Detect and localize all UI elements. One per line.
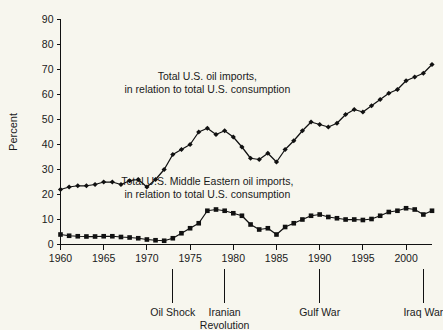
data-point-marker — [309, 213, 314, 218]
data-point-marker — [214, 207, 219, 212]
data-point-marker — [84, 183, 89, 188]
event-annotations: Oil ShockIranianRevolutionGulf WarIraq W… — [150, 269, 443, 330]
data-point-marker — [326, 124, 331, 129]
series-label-line2: in relation to total U.S. consumption — [124, 188, 290, 200]
x-axis-ticks: 196019651970197519801985199019952000 — [49, 245, 418, 264]
annotation-label: Iranian — [209, 306, 241, 318]
series-middle-eastern-oil-imports — [58, 206, 434, 243]
data-point-marker — [222, 208, 227, 213]
y-axis-title: Percent — [7, 113, 19, 151]
x-axis-group: 196019651970197519801985199019952000 — [49, 245, 432, 264]
x-tick-label: 1965 — [92, 252, 116, 264]
chart-container: 0102030405060708090 19601965197019751980… — [0, 0, 443, 330]
y-axis-group: 0102030405060708090 — [42, 13, 61, 250]
data-point-marker — [291, 221, 296, 226]
x-tick-label: 2000 — [394, 252, 418, 264]
data-point-marker — [369, 217, 374, 222]
y-axis-ticks: 0102030405060708090 — [42, 13, 61, 250]
data-point-marker — [274, 232, 279, 237]
data-point-marker — [378, 213, 383, 218]
data-point-marker — [58, 232, 63, 237]
data-point-marker — [395, 208, 400, 213]
y-tick-label: 30 — [42, 163, 54, 175]
data-point-marker — [67, 233, 72, 238]
data-point-marker — [188, 226, 193, 231]
series-label-line1: Total U.S. Middle Eastern oil imports, — [121, 175, 293, 187]
y-tick-label: 60 — [42, 88, 54, 100]
data-point-marker — [179, 147, 184, 152]
series-line — [61, 208, 433, 241]
data-point-marker — [67, 184, 72, 189]
x-tick-label: 1985 — [265, 252, 289, 264]
data-point-marker — [170, 152, 175, 157]
y-tick-label: 10 — [42, 213, 54, 225]
data-point-marker — [110, 179, 115, 184]
data-point-marker — [430, 208, 435, 213]
annotation-label: Oil Shock — [150, 306, 196, 318]
data-point-marker — [231, 211, 236, 216]
y-tick-label: 70 — [42, 63, 54, 75]
data-point-marker — [421, 212, 426, 217]
data-point-marker — [404, 206, 409, 211]
data-point-marker — [300, 217, 305, 222]
data-point-marker — [317, 122, 322, 127]
annotation-label-line2: Revolution — [200, 319, 250, 330]
data-point-marker — [352, 107, 357, 112]
data-point-marker — [335, 216, 340, 221]
data-point-marker — [412, 74, 417, 79]
data-point-marker — [326, 215, 331, 220]
data-point-marker — [153, 238, 158, 243]
series-label-line2: in relation to total U.S. consumption — [124, 83, 290, 95]
data-point-marker — [93, 234, 98, 239]
data-point-marker — [283, 225, 288, 230]
x-tick-label: 1975 — [178, 252, 202, 264]
data-point-marker — [136, 236, 141, 241]
x-tick-label: 1980 — [222, 252, 246, 264]
data-point-marker — [266, 226, 271, 231]
data-point-marker — [343, 217, 348, 222]
data-point-marker — [361, 218, 366, 223]
data-point-marker — [317, 212, 322, 217]
y-tick-label: 40 — [42, 138, 54, 150]
data-point-marker — [75, 234, 80, 239]
data-point-marker — [92, 182, 97, 187]
data-point-marker — [179, 231, 184, 236]
oil-imports-line-chart: 0102030405060708090 19601965197019751980… — [0, 0, 443, 330]
data-point-marker — [257, 227, 262, 232]
data-point-marker — [58, 187, 63, 192]
data-point-marker — [162, 238, 167, 243]
x-tick-label: 1990 — [308, 252, 332, 264]
y-tick-label: 80 — [42, 38, 54, 50]
x-tick-label: 1970 — [135, 252, 159, 264]
y-tick-label: 0 — [48, 238, 54, 250]
data-point-marker — [75, 183, 80, 188]
series-inline-labels: Total U.S. oil imports,in relation to to… — [121, 70, 293, 200]
annotation-label: Iraq War — [403, 306, 443, 318]
y-tick-label: 50 — [42, 113, 54, 125]
data-point-marker — [145, 237, 150, 242]
data-point-marker — [352, 217, 357, 222]
data-point-marker — [240, 213, 245, 218]
data-point-marker — [171, 236, 176, 241]
data-point-marker — [248, 222, 253, 227]
data-point-marker — [196, 221, 201, 226]
data-point-marker — [119, 235, 124, 240]
data-point-marker — [387, 210, 392, 215]
annotation-label: Gulf War — [299, 306, 341, 318]
y-tick-label: 90 — [42, 13, 54, 25]
x-tick-label: 1960 — [49, 252, 73, 264]
x-tick-label: 1995 — [351, 252, 375, 264]
data-point-marker — [127, 235, 132, 240]
y-tick-label: 20 — [42, 188, 54, 200]
series-label-line1: Total U.S. oil imports, — [158, 70, 257, 82]
data-point-marker — [84, 234, 89, 239]
data-point-marker — [101, 179, 106, 184]
data-point-marker — [205, 208, 210, 213]
data-point-marker — [412, 207, 417, 212]
data-point-marker — [110, 234, 115, 239]
data-point-marker — [101, 234, 106, 239]
